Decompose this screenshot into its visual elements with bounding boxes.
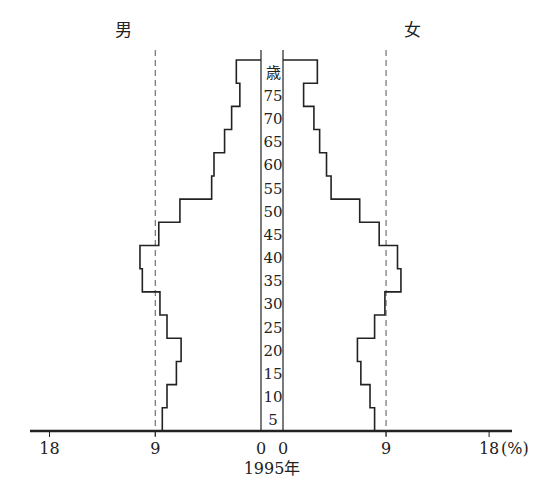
- x-unit-label: (%): [501, 439, 529, 458]
- female-outline: [283, 60, 401, 431]
- age-label: 10: [263, 388, 282, 406]
- age-label: 75: [263, 87, 282, 105]
- x-tick-label: 0: [278, 439, 288, 458]
- age-label: 30: [263, 295, 282, 313]
- age-label: 35: [263, 272, 282, 290]
- x-tick-label: 18: [39, 439, 59, 458]
- year-label: 1995年: [244, 459, 301, 478]
- age-label: 65: [263, 133, 282, 151]
- male-outline: [140, 60, 261, 431]
- population-pyramid-chart: 歳75706560555045403530252015105 18900918(…: [0, 0, 554, 501]
- x-tick-label: 9: [150, 439, 160, 458]
- x-tick-label: 0: [256, 439, 266, 458]
- age-label: 60: [263, 156, 282, 174]
- x-tick-label: 18: [479, 439, 499, 458]
- age-label: 70: [263, 110, 282, 128]
- age-label: 5: [268, 411, 278, 429]
- age-label: 15: [263, 365, 282, 383]
- x-axis: 18900918(%): [30, 431, 529, 458]
- age-label: 55: [263, 180, 282, 198]
- age-label: 40: [263, 249, 282, 267]
- age-label: 50: [263, 203, 282, 221]
- age-label: 25: [263, 319, 282, 337]
- age-label: 歳: [266, 64, 281, 82]
- x-tick-label: 9: [381, 439, 391, 458]
- age-label: 20: [263, 342, 282, 360]
- age-labels: 歳75706560555045403530252015105: [263, 64, 282, 430]
- age-label: 45: [263, 226, 282, 244]
